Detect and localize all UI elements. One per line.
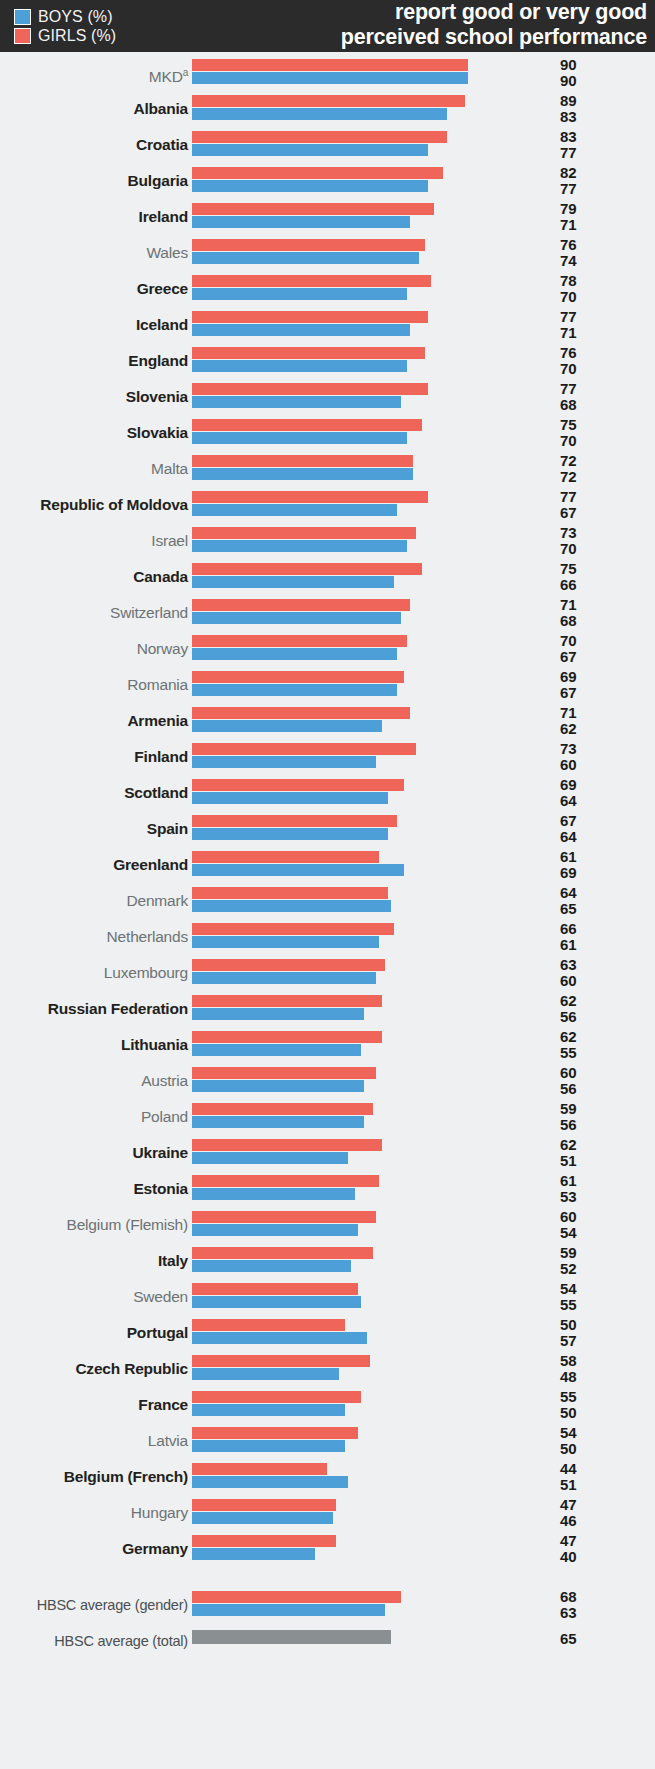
bar-boys-average [192, 1604, 385, 1616]
value-girls: 61 [560, 1173, 635, 1189]
chart-row: Armenia7162 [0, 703, 655, 739]
value-boys: 83 [560, 109, 635, 125]
row-values: 7360 [560, 741, 635, 773]
row-bars [192, 239, 492, 267]
bar-girls [192, 383, 428, 395]
row-bars [192, 1355, 492, 1383]
value-boys: 68 [560, 613, 635, 629]
bar-boys [192, 972, 376, 984]
bar-boys [192, 324, 410, 336]
value-girls: 47 [560, 1533, 635, 1549]
value-total-average: 65 [560, 1631, 635, 1647]
value-girls: 72 [560, 453, 635, 469]
row-bars [192, 635, 492, 663]
row-values: 7674 [560, 237, 635, 269]
value-girls: 78 [560, 273, 635, 289]
row-bars [192, 887, 492, 915]
value-boys: 56 [560, 1117, 635, 1133]
bar-boys [192, 1332, 367, 1344]
value-girls: 90 [560, 57, 635, 73]
bar-boys [192, 468, 413, 480]
bar-girls [192, 743, 416, 755]
row-values: 4740 [560, 1533, 635, 1565]
chart-row: Czech Republic5848 [0, 1351, 655, 1387]
chart-row: Slovenia7768 [0, 379, 655, 415]
bar-boys [192, 684, 397, 696]
value-boys: 46 [560, 1513, 635, 1529]
row-bars [192, 1031, 492, 1059]
row-label: Lithuania [0, 1033, 188, 1057]
row-bars [192, 59, 492, 87]
bar-girls [192, 1463, 327, 1475]
value-boys: 77 [560, 181, 635, 197]
row-bars [192, 1463, 492, 1491]
row-label: Russian Federation [0, 997, 188, 1021]
chart-row: France5550 [0, 1387, 655, 1423]
row-bars [192, 707, 492, 735]
chart-row: Greenland6169 [0, 847, 655, 883]
row-values: 65 [560, 1625, 635, 1647]
row-values: 4746 [560, 1497, 635, 1529]
chart-row: MKDa9090 [0, 55, 655, 91]
value-boys: 74 [560, 253, 635, 269]
legend-swatch-boys-icon [14, 9, 31, 25]
row-values: 5057 [560, 1317, 635, 1349]
value-girls: 76 [560, 345, 635, 361]
value-girls: 59 [560, 1101, 635, 1117]
bar-boys [192, 576, 394, 588]
row-values: 6964 [560, 777, 635, 809]
chart-row: Spain6764 [0, 811, 655, 847]
bar-girls [192, 851, 379, 863]
value-boys-average: 63 [560, 1605, 635, 1621]
value-girls: 62 [560, 1029, 635, 1045]
bar-girls [192, 1067, 376, 1079]
chart-row: Germany4740 [0, 1531, 655, 1567]
chart-row: Austria6056 [0, 1063, 655, 1099]
bar-girls [192, 635, 407, 647]
value-boys: 56 [560, 1009, 635, 1025]
row-label: Ireland [0, 205, 188, 229]
value-girls: 67 [560, 813, 635, 829]
row-label: Scotland [0, 781, 188, 805]
value-girls: 77 [560, 489, 635, 505]
row-bars [192, 923, 492, 951]
value-girls: 54 [560, 1281, 635, 1297]
bar-girls [192, 275, 431, 287]
bar-boys [192, 432, 407, 444]
bar-girls [192, 167, 443, 179]
row-values: 5848 [560, 1353, 635, 1385]
row-values: 5956 [560, 1101, 635, 1133]
bar-girls [192, 887, 388, 899]
chart-row: Poland5956 [0, 1099, 655, 1135]
row-bars [192, 383, 492, 411]
chart-row: Ukraine6251 [0, 1135, 655, 1171]
row-values: 8277 [560, 165, 635, 197]
bar-girls [192, 1283, 358, 1295]
bar-boys [192, 144, 428, 156]
chart-row: Sweden5455 [0, 1279, 655, 1315]
row-bars [192, 743, 492, 771]
bar-boys [192, 1260, 351, 1272]
row-bars [192, 1319, 492, 1347]
value-boys: 48 [560, 1369, 635, 1385]
chart-row: Wales7674 [0, 235, 655, 271]
value-boys: 70 [560, 361, 635, 377]
chart-row: Norway7067 [0, 631, 655, 667]
value-girls: 73 [560, 525, 635, 541]
chart-header-band: BOYS (%) GIRLS (%) report good or very g… [0, 0, 655, 52]
chart-row: Lithuania6255 [0, 1027, 655, 1063]
row-values: 6054 [560, 1209, 635, 1241]
row-label: Italy [0, 1249, 188, 1273]
value-boys: 51 [560, 1477, 635, 1493]
value-boys: 61 [560, 937, 635, 953]
row-values: 6255 [560, 1029, 635, 1061]
bar-boys [192, 396, 401, 408]
chart-title-line-2: perceived school performance [227, 25, 647, 50]
value-girls-average: 68 [560, 1589, 635, 1605]
row-bars [192, 1283, 492, 1311]
row-bars [192, 1103, 492, 1131]
value-boys: 69 [560, 865, 635, 881]
chart-row: Estonia6153 [0, 1171, 655, 1207]
row-bars [192, 167, 492, 195]
value-boys: 68 [560, 397, 635, 413]
